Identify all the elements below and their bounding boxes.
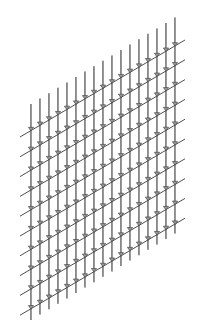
lattice-diagram [0,0,203,329]
rebar-grid-svg [0,0,203,329]
vertical-rods [31,18,175,320]
